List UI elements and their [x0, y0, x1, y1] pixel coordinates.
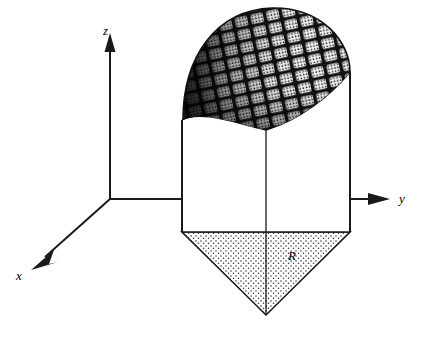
figure-canvas: z y x R	[0, 0, 424, 340]
z-axis-label: z	[103, 24, 108, 37]
radius-label: R	[288, 249, 296, 262]
x-axis-label: x	[16, 269, 22, 282]
arrow-down-left-icon	[31, 250, 58, 270]
x-axis	[31, 199, 110, 270]
x-axis-line	[45, 199, 110, 257]
arrow-right-icon	[368, 193, 390, 205]
inverted-cone	[182, 232, 350, 315]
z-axis	[105, 33, 116, 199]
y-axis-label: y	[399, 192, 405, 205]
solid-region-diagram	[0, 0, 424, 340]
